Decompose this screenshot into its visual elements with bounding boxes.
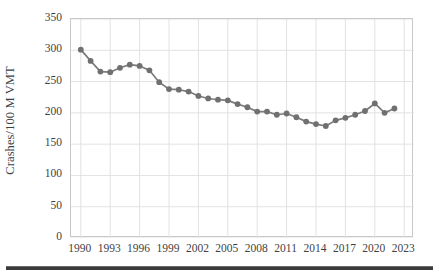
data-point-marker (117, 65, 123, 71)
data-point-marker (362, 108, 368, 114)
x-tick-label: 2011 (274, 241, 297, 255)
x-tick-label: 2020 (362, 241, 385, 255)
y-tick-label: 150 (45, 137, 62, 149)
chart-figure: Crashes/100 M VMT 050100150200250300350 … (0, 0, 439, 277)
data-point-marker (147, 67, 153, 73)
data-point-marker (392, 106, 398, 112)
series-line-crashes (81, 50, 395, 126)
data-point-marker (264, 109, 270, 115)
data-point-marker (176, 87, 182, 93)
plot-area (70, 18, 413, 237)
data-point-marker (245, 104, 251, 110)
x-tick-label: 1990 (68, 241, 91, 255)
data-point-marker (137, 63, 143, 69)
data-point-marker (98, 69, 104, 75)
x-tick-label: 1993 (98, 241, 121, 255)
data-point-marker (333, 117, 339, 123)
y-tick-label: 300 (45, 43, 62, 55)
data-point-marker (107, 69, 113, 75)
data-point-marker (88, 58, 94, 64)
y-tick-label: 250 (45, 75, 62, 87)
x-tick-label: 2023 (392, 241, 415, 255)
y-axis-title: Crashes/100 M VMT (0, 0, 20, 240)
x-tick-label: 1996 (127, 241, 150, 255)
x-tick-label: 2005 (215, 241, 238, 255)
bottom-divider (6, 266, 433, 270)
gridlines-vertical (81, 19, 404, 238)
data-point-marker (382, 110, 388, 116)
data-point-marker (205, 96, 211, 102)
data-point-marker (196, 93, 202, 99)
data-point-marker (156, 79, 162, 85)
x-tick-label: 2008 (245, 241, 268, 255)
data-point-marker (343, 115, 349, 121)
data-point-marker (215, 97, 221, 103)
plot-svg (71, 19, 414, 238)
y-tick-label: 200 (45, 106, 62, 118)
x-tick-label: 2014 (304, 241, 327, 255)
y-tick-label: 100 (45, 168, 62, 180)
x-tick-label: 2002 (186, 241, 209, 255)
data-point-marker (78, 47, 84, 53)
data-point-marker (166, 86, 172, 92)
data-point-marker (372, 101, 378, 107)
data-point-marker (323, 123, 329, 129)
data-point-marker (313, 121, 319, 127)
y-tick-label: 0 (56, 231, 62, 243)
y-tick-label: 350 (45, 12, 62, 24)
y-tick-label: 50 (51, 200, 63, 212)
x-tick-label: 1999 (157, 241, 180, 255)
data-point-marker (303, 119, 309, 125)
data-point-marker (225, 97, 231, 103)
gridlines-horizontal (71, 19, 414, 238)
data-point-marker (127, 62, 133, 68)
data-point-marker (274, 112, 280, 118)
data-point-marker (254, 109, 260, 115)
y-axis-title-text: Crashes/100 M VMT (3, 66, 18, 174)
x-axis-tick-labels: 1990199319961999200220052008201120142017… (70, 241, 413, 259)
data-point-marker (284, 111, 290, 117)
y-axis-tick-labels: 050100150200250300350 (22, 10, 66, 238)
data-point-marker (235, 101, 241, 107)
data-point-marker (294, 114, 300, 120)
x-tick-label: 2017 (333, 241, 356, 255)
data-point-marker (352, 112, 358, 118)
data-point-marker (186, 89, 192, 95)
